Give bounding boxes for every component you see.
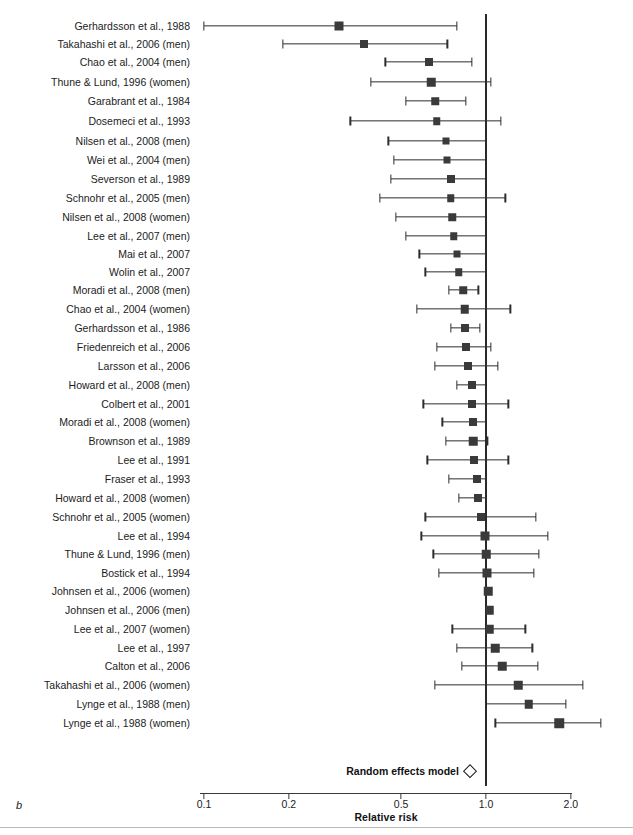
confidence-interval-cap — [471, 58, 472, 67]
confidence-interval-line — [350, 120, 501, 121]
confidence-interval-cap — [532, 644, 533, 653]
confidence-interval-cap — [434, 362, 435, 371]
reference-line — [485, 14, 487, 786]
confidence-interval-cap — [485, 381, 486, 390]
confidence-interval-line — [423, 403, 508, 404]
confidence-interval-cap — [547, 532, 548, 541]
point-estimate-marker — [474, 494, 482, 502]
x-axis-line — [200, 793, 572, 794]
confidence-interval-cap — [582, 681, 583, 690]
confidence-interval-line — [204, 25, 457, 26]
confidence-interval-cap — [405, 97, 406, 106]
confidence-interval-cap — [490, 78, 491, 87]
confidence-interval-cap — [434, 681, 435, 690]
confidence-interval-cap — [485, 250, 486, 259]
point-estimate-marker — [427, 78, 436, 87]
confidence-interval-cap — [456, 644, 457, 653]
confidence-interval-cap — [448, 475, 449, 484]
confidence-interval-cap — [485, 213, 486, 222]
confidence-interval-cap — [465, 97, 466, 106]
confidence-interval-cap — [485, 475, 486, 484]
confidence-interval-cap — [350, 117, 351, 126]
point-estimate-marker — [469, 437, 478, 446]
point-estimate-marker — [468, 400, 476, 408]
confidence-interval-cap — [495, 719, 496, 728]
point-estimate-marker — [484, 587, 493, 596]
confidence-interval-cap — [379, 194, 380, 203]
point-estimate-marker — [483, 569, 492, 578]
x-axis-tick-label: 0.5 — [394, 798, 409, 810]
point-estimate-marker — [455, 268, 463, 276]
confidence-interval-cap — [456, 381, 457, 390]
confidence-interval-cap — [485, 268, 486, 277]
confidence-interval-cap — [485, 232, 486, 241]
confidence-interval-cap — [448, 286, 449, 295]
point-estimate-marker — [480, 532, 489, 541]
confidence-interval-cap — [385, 58, 386, 67]
point-estimate-marker — [447, 175, 455, 183]
confidence-interval-line — [442, 421, 486, 422]
confidence-interval-line — [427, 459, 508, 460]
confidence-interval-line — [495, 722, 600, 723]
point-estimate-marker — [491, 644, 500, 653]
confidence-interval-line — [380, 197, 505, 198]
point-estimate-marker — [469, 418, 477, 426]
point-estimate-marker — [555, 718, 565, 728]
confidence-interval-cap — [445, 437, 446, 446]
confidence-interval-cap — [485, 494, 486, 503]
point-estimate-marker — [447, 194, 455, 202]
confidence-interval-cap — [438, 569, 439, 578]
confidence-interval-line — [391, 178, 486, 179]
panel-letter: b — [16, 799, 22, 811]
confidence-interval-cap — [490, 343, 491, 352]
point-estimate-marker — [470, 456, 478, 464]
confidence-interval-cap — [478, 286, 479, 295]
point-estimate-marker — [442, 138, 449, 145]
confidence-interval-cap — [452, 625, 453, 634]
confidence-interval-line — [394, 159, 486, 160]
confidence-interval-cap — [533, 569, 534, 578]
confidence-interval-line — [446, 440, 487, 441]
confidence-interval-cap — [427, 456, 428, 465]
confidence-interval-cap — [425, 513, 426, 522]
confidence-interval-cap — [425, 268, 426, 277]
confidence-interval-line — [419, 253, 486, 254]
x-axis-tick-label: 0.1 — [197, 798, 212, 810]
point-estimate-marker — [461, 324, 469, 332]
point-estimate-marker — [433, 117, 441, 125]
point-estimate-marker — [462, 343, 470, 351]
point-estimate-marker — [444, 157, 451, 164]
confidence-interval-cap — [447, 40, 448, 49]
confidence-interval-cap — [508, 456, 509, 465]
confidence-interval-cap — [421, 532, 422, 541]
forest-plot-figure: Gerhardsson et al., 1988Takahashi et al.… — [0, 0, 633, 835]
x-axis-tick-label: 2.0 — [564, 798, 579, 810]
confidence-interval-cap — [417, 305, 418, 314]
confidence-interval-cap — [282, 40, 283, 49]
confidence-interval-cap — [442, 418, 443, 427]
summary-label: Random effects model — [346, 765, 459, 777]
confidence-interval-cap — [485, 175, 486, 184]
confidence-interval-cap — [485, 156, 486, 165]
confidence-interval-cap — [535, 513, 536, 522]
confidence-interval-cap — [393, 156, 394, 165]
point-estimate-marker — [514, 681, 523, 690]
point-estimate-marker — [460, 305, 469, 314]
point-estimate-marker — [449, 213, 457, 221]
confidence-interval-cap — [370, 78, 371, 87]
point-estimate-marker — [477, 513, 485, 521]
point-estimate-marker — [360, 40, 368, 48]
confidence-interval-cap — [485, 700, 486, 709]
confidence-interval-cap — [450, 324, 451, 333]
confidence-interval-cap — [479, 324, 480, 333]
confidence-interval-cap — [485, 137, 486, 146]
confidence-interval-line — [435, 684, 582, 685]
confidence-interval-cap — [419, 250, 420, 259]
confidence-interval-cap — [537, 662, 538, 671]
point-estimate-marker — [464, 362, 472, 370]
point-estimate-marker — [525, 700, 534, 709]
bottom-divider — [0, 827, 633, 828]
point-estimate-marker — [459, 286, 467, 294]
confidence-interval-cap — [538, 550, 539, 559]
x-axis-tick-label: 1.0 — [479, 798, 494, 810]
